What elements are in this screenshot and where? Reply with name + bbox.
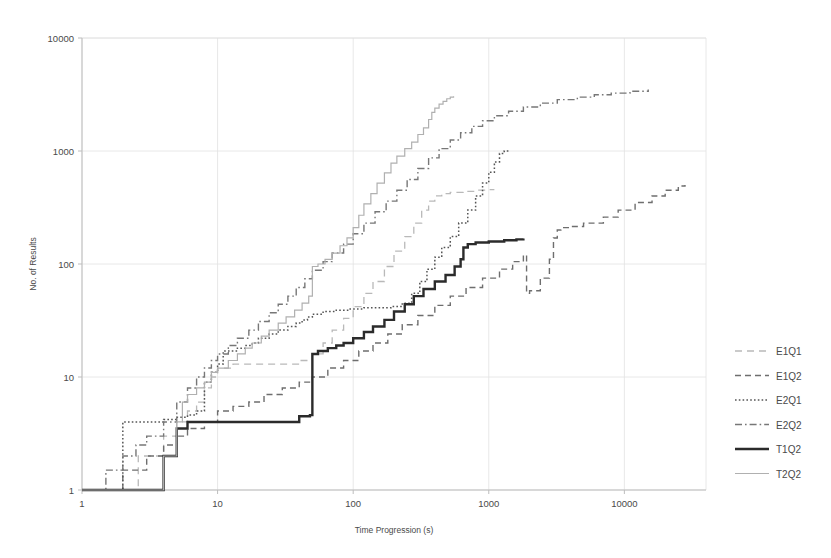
legend-label-t1q2[interactable]: T1Q2 (776, 444, 801, 455)
chart-figure: 110100100010000110100100010000Time Progr… (0, 0, 831, 558)
series-line-e2q1 (82, 150, 509, 490)
legend-label-e1q1[interactable]: E1Q1 (776, 346, 802, 357)
x-tick-label-2: 100 (345, 498, 361, 509)
series-line-t1q2 (82, 239, 523, 490)
y-tick-label-2: 100 (58, 259, 74, 270)
x-tick-label-0: 1 (79, 498, 84, 509)
legend-label-e1q2[interactable]: E1Q2 (776, 371, 802, 382)
y-tick-label-1: 10 (63, 372, 74, 383)
series-line-t2q2 (82, 96, 454, 490)
legend-label-e2q1[interactable]: E2Q1 (776, 395, 802, 406)
series-line-e2q2 (82, 90, 648, 490)
x-tick-label-1: 10 (212, 498, 223, 509)
chart-canvas: 110100100010000110100100010000Time Progr… (0, 0, 831, 558)
y-tick-label-0: 1 (69, 485, 74, 496)
y-axis-title: No. of Results (28, 237, 38, 290)
y-tick-label-4: 10000 (48, 33, 74, 44)
x-tick-label-4: 10000 (611, 498, 637, 509)
legend-label-t2q2[interactable]: T2Q2 (776, 469, 801, 480)
y-tick-label-3: 1000 (53, 146, 74, 157)
series-line-e1q2 (82, 185, 685, 490)
x-tick-label-3: 1000 (478, 498, 499, 509)
x-axis-title: Time Progression (s) (355, 525, 434, 535)
legend-label-e2q2[interactable]: E2Q2 (776, 420, 802, 431)
